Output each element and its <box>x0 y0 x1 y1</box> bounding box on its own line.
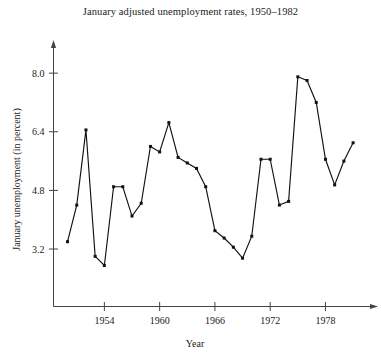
x-axis-tick-label: 1954 <box>94 315 114 326</box>
data-point-marker <box>342 160 345 163</box>
data-point-marker <box>232 246 235 249</box>
x-axis-tick-label: 1960 <box>150 315 170 326</box>
data-point-marker <box>315 101 318 104</box>
data-point-marker <box>278 204 281 207</box>
data-point-marker <box>94 255 97 258</box>
x-axis: 19541960196619721978 <box>54 302 379 326</box>
plot-area: 3.24.86.48.0 19541960196619721978 <box>0 0 381 364</box>
y-axis-tick-label: 8.0 <box>32 68 45 79</box>
data-point-marker <box>204 185 207 188</box>
data-point-marker <box>158 150 161 153</box>
x-axis-arrow-icon <box>370 304 378 309</box>
data-point-marker <box>324 158 327 161</box>
x-axis-tick-label: 1966 <box>205 315 225 326</box>
data-point-marker <box>250 235 253 238</box>
data-point-marker <box>140 202 143 205</box>
data-series-unemployment <box>66 75 355 267</box>
data-point-marker <box>306 79 309 82</box>
data-point-marker <box>213 229 216 232</box>
data-point-marker <box>259 158 262 161</box>
data-point-marker <box>131 215 134 218</box>
data-point-marker <box>177 156 180 159</box>
x-axis-tick-label: 1972 <box>260 315 280 326</box>
data-point-marker <box>66 240 69 243</box>
data-point-marker <box>333 183 336 186</box>
data-point-marker <box>223 237 226 240</box>
data-point-marker <box>287 200 290 203</box>
data-point-marker <box>121 185 124 188</box>
data-point-marker <box>149 145 152 148</box>
data-point-marker <box>167 121 170 124</box>
data-point-marker <box>269 158 272 161</box>
data-line <box>68 77 354 266</box>
y-axis-tick-label: 6.4 <box>32 126 45 137</box>
data-point-marker <box>103 264 106 267</box>
data-point-marker <box>241 257 244 260</box>
y-axis-tick-label: 4.8 <box>32 185 45 196</box>
y-axis-tick-label: 3.2 <box>32 244 45 255</box>
y-axis-arrow-icon <box>51 40 56 48</box>
chart-figure: January adjusted unemployment rates, 195… <box>0 0 381 364</box>
data-point-marker <box>186 161 189 164</box>
data-point-marker <box>296 75 299 78</box>
data-point-marker <box>352 141 355 144</box>
data-point-marker <box>112 185 115 188</box>
x-axis-tick-label: 1978 <box>315 315 335 326</box>
data-point-marker <box>195 167 198 170</box>
y-axis: 3.24.86.48.0 <box>32 40 58 307</box>
data-point-marker <box>84 128 87 131</box>
data-point-marker <box>75 204 78 207</box>
